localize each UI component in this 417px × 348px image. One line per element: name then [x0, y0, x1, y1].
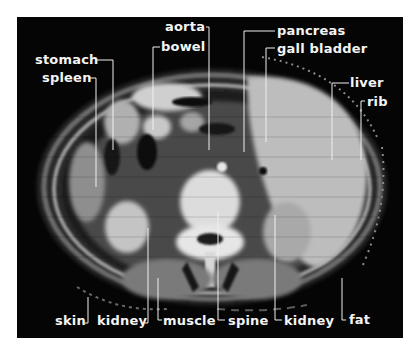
label-bowel: bowel	[161, 40, 206, 54]
label-gall-bladder: gall bladder	[277, 42, 367, 56]
label-kidney-left: kidney	[97, 314, 147, 328]
label-pancreas: pancreas	[277, 24, 345, 38]
label-liver: liver	[350, 76, 384, 90]
label-stomach: stomach	[35, 53, 99, 67]
label-kidney-right: kidney	[284, 314, 334, 328]
label-muscle: muscle	[163, 314, 216, 328]
label-fat: fat	[349, 313, 370, 327]
label-aorta: aorta	[165, 20, 205, 34]
label-rib: rib	[367, 95, 388, 109]
label-spine: spine	[228, 314, 269, 328]
label-spleen: spleen	[42, 71, 92, 85]
label-skin: skin	[55, 314, 86, 328]
